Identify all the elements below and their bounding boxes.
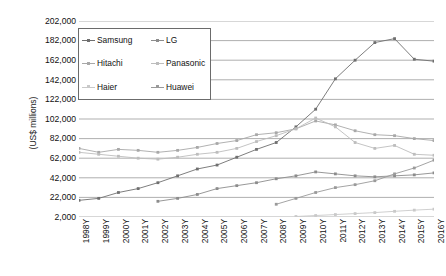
data-point: [255, 133, 258, 136]
data-point: [314, 108, 317, 111]
y-axis-tick-label: 162,000: [24, 56, 76, 65]
data-point: [413, 167, 416, 170]
data-point: [156, 158, 159, 161]
data-point: [314, 117, 317, 120]
legend-item-lg[interactable]: LG: [148, 36, 212, 45]
x-axis-tick-label: 2000Y: [122, 219, 130, 265]
legend-swatch-icon: [82, 37, 95, 44]
legend-swatch-icon: [151, 37, 164, 44]
x-axis-tick-label: 2013Y: [378, 219, 386, 265]
y-axis-tick-label: 2,000: [24, 213, 76, 222]
data-point: [275, 177, 278, 180]
x-axis-tick-label: 2007Y: [260, 219, 268, 265]
x-axis-tick-label: 2004Y: [201, 219, 209, 265]
x-axis-tick-label: 2015Y: [417, 219, 425, 265]
data-point: [275, 141, 278, 144]
y-axis-title: (US$ millions): [28, 68, 38, 178]
data-point: [79, 199, 80, 202]
legend-label: Haier: [97, 83, 117, 92]
data-point: [373, 147, 376, 150]
data-point: [137, 149, 140, 152]
data-point: [433, 172, 434, 175]
data-point: [413, 173, 416, 176]
data-point: [334, 172, 337, 175]
legend-label: Samsung: [97, 36, 132, 45]
data-point: [354, 129, 357, 132]
x-axis-tick-labels: 1998Y1999Y2000Y2001Y2002Y2003Y2004Y2005Y…: [79, 219, 434, 276]
data-point: [235, 147, 238, 150]
data-point: [255, 148, 258, 151]
data-point: [413, 58, 416, 61]
data-point: [176, 149, 179, 152]
y-axis-tick-label: 182,000: [24, 36, 76, 45]
data-point: [354, 174, 357, 177]
legend-label: Hitachi: [97, 59, 123, 68]
data-point: [117, 191, 120, 194]
data-point: [433, 208, 434, 211]
data-point: [295, 127, 298, 130]
data-point: [216, 142, 219, 145]
legend-label: LG: [166, 36, 177, 45]
data-point: [373, 41, 376, 44]
legend-item-haier[interactable]: Haier: [79, 83, 148, 92]
x-axis-tick-label: 1998Y: [82, 219, 90, 265]
data-point: [156, 181, 159, 184]
data-point: [235, 156, 238, 159]
data-point: [334, 125, 337, 128]
data-point: [314, 191, 317, 194]
data-point: [255, 181, 258, 184]
data-point: [196, 193, 199, 196]
data-point: [373, 179, 376, 182]
data-point: [314, 214, 317, 217]
legend-swatch-icon: [82, 60, 95, 67]
data-point: [433, 154, 434, 157]
x-axis-tick-label: 2006Y: [240, 219, 248, 265]
data-point: [373, 133, 376, 136]
y-axis-tick-label: 202,000: [24, 17, 76, 26]
legend-swatch-icon: [151, 60, 164, 67]
data-point: [393, 37, 396, 40]
legend-item-huawei[interactable]: Huawei: [148, 83, 212, 92]
legend-label: Panasonic: [166, 59, 205, 68]
legend-label: Huawei: [166, 83, 194, 92]
data-point: [156, 200, 159, 203]
data-point: [97, 197, 100, 200]
series-huawei: [275, 159, 434, 206]
x-axis-tick-label: 2009Y: [299, 219, 307, 265]
y-axis-tick-label: 22,000: [24, 193, 76, 202]
data-point: [117, 155, 120, 158]
data-point: [373, 211, 376, 214]
x-axis-tick-label: 2016Y: [437, 219, 445, 265]
data-point: [176, 197, 179, 200]
data-point: [413, 153, 416, 156]
x-axis-tick-label: 2001Y: [141, 219, 149, 265]
data-point: [176, 156, 179, 159]
data-point: [295, 197, 298, 200]
data-point: [393, 172, 396, 175]
data-point: [433, 60, 434, 63]
legend-item-samsung[interactable]: Samsung: [79, 36, 148, 45]
x-axis-tick-label: 2012Y: [358, 219, 366, 265]
data-point: [314, 120, 317, 123]
data-point: [295, 215, 298, 217]
x-axis-tick-label: 2003Y: [181, 219, 189, 265]
x-axis-tick-label: 2002Y: [161, 219, 169, 265]
data-point: [97, 153, 100, 156]
data-point: [373, 175, 376, 178]
x-axis-tick-label: 2014Y: [398, 219, 406, 265]
data-point: [216, 151, 219, 154]
data-point: [137, 157, 140, 160]
data-point: [275, 131, 278, 134]
data-point: [354, 141, 357, 144]
data-point: [79, 147, 80, 150]
data-point: [413, 209, 416, 212]
data-point: [196, 153, 199, 156]
legend-item-hitachi[interactable]: Hitachi: [79, 59, 148, 68]
legend-item-panasonic[interactable]: Panasonic: [148, 59, 212, 68]
data-point: [137, 187, 140, 190]
series-haier: [295, 208, 434, 217]
data-point: [275, 203, 278, 206]
x-axis-tick-label: 2008Y: [279, 219, 287, 265]
data-point: [255, 140, 258, 143]
